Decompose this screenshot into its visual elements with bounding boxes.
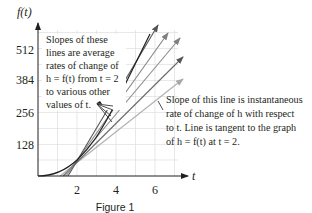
secant-note-line: values of t. [46,99,91,110]
tangent-pointer [158,101,163,110]
y-tick-256: 256 [16,106,34,120]
secant-note-line: Slopes of these [46,34,108,45]
tangent-note-line: to t. Line is tangent to the graph [166,122,296,133]
tangent-note-line: of h = f(t) at t = 2. [166,136,240,148]
y-tick-384: 384 [16,73,34,87]
secant-note-line: h = f(t) from t = 2 [46,73,119,85]
secant-note-line: lines are average [46,47,115,58]
y-tick-128: 128 [16,138,34,152]
figure-caption: Figure 1 [96,201,135,213]
tangent-note-line: Slope of this line is instantaneous [166,94,303,105]
rate-of-change-figure: f(t) t 2 4 6 512 384 256 128 Slopes of t… [0,0,312,213]
secant-note-line: to various other [46,86,111,97]
x-tick-6: 6 [152,183,158,197]
y-tick-512: 512 [16,43,34,57]
x-axis-label: t [192,169,196,183]
secant-note-line: rates of change of [46,60,119,71]
tangent-note-line: rate of change of h with respect [166,108,295,119]
x-tick-2: 2 [74,183,80,197]
tangent-annotation: Slope of this line is instantaneous rate… [166,94,303,148]
y-axis-label: f(t) [17,5,32,19]
x-tick-4: 4 [113,183,119,197]
